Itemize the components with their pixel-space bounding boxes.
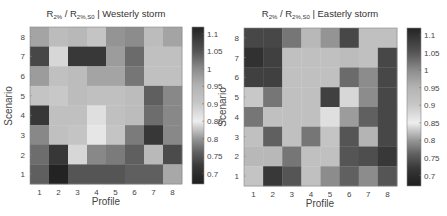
colorbar-westerly <box>192 27 204 184</box>
panel-easterly: R2% / R2%,S0 | Easterly storm 12345678 1… <box>217 8 440 209</box>
heatmap-cell <box>340 127 359 147</box>
heatmap-cell <box>125 47 144 67</box>
heatmap-cell <box>30 106 49 126</box>
heatmap-cell <box>163 47 182 67</box>
heatmap-cell <box>321 28 340 48</box>
y-tick-label: 6 <box>21 72 26 81</box>
heatmap-cell <box>282 107 301 127</box>
colorbar-tick-label: 0.95 <box>424 84 440 93</box>
colorbar-tick-label: 0.7 <box>424 172 436 181</box>
chart-title-easterly: R2% / R2%,S0 | Easterly storm <box>262 8 379 20</box>
heatmap-cell <box>163 164 182 184</box>
heatmap-cell <box>49 145 68 165</box>
heatmap-cell <box>106 106 125 126</box>
heatmap-cell <box>49 86 68 106</box>
y-tick-label: 4 <box>235 113 240 122</box>
heatmap-cell <box>301 68 320 88</box>
x-tick-label: 8 <box>385 190 390 199</box>
y-tick-label: 3 <box>21 131 26 140</box>
heatmap-cell <box>321 48 340 68</box>
heatmap-cell <box>359 166 378 186</box>
heatmap-cell <box>282 48 301 68</box>
heatmap-cell <box>321 68 340 88</box>
heatmap-cell <box>106 47 125 67</box>
y-axis-label-easterly: Scenario <box>217 87 228 127</box>
heatmap-cell <box>106 27 125 47</box>
heatmap-cell <box>378 87 397 107</box>
heatmap-cell <box>378 107 397 127</box>
heatmap-cell <box>144 106 163 126</box>
y-tick-label: 1 <box>235 172 240 181</box>
colorbar-tick-label: 0.75 <box>207 152 223 161</box>
heatmap-cell <box>244 48 263 68</box>
heatmap-cell <box>87 66 106 86</box>
heatmap-cells-easterly <box>244 28 397 186</box>
heatmap-cell <box>87 27 106 47</box>
heatmap-cell <box>301 48 320 68</box>
heatmap-cell <box>163 86 182 106</box>
x-tick-label: 1 <box>37 188 42 197</box>
heatmap-cell <box>30 125 49 145</box>
heatmap-cell <box>282 166 301 186</box>
heatmap-cell <box>359 147 378 167</box>
heatmap-cell <box>125 164 144 184</box>
heatmap-cell <box>263 127 282 147</box>
heatmap-cell <box>321 147 340 167</box>
x-tick-label: 3 <box>290 190 295 199</box>
heatmap-cell <box>68 106 87 126</box>
heatmap-cell <box>87 164 106 184</box>
colorbar-tick-label: 0.8 <box>207 135 219 144</box>
colorbar-tick-label: 1 <box>207 65 212 74</box>
panel-westerly: R2% / R2%,S0 | Westerly storm 12345678 1… <box>3 8 223 207</box>
heatmap-cell <box>144 27 163 47</box>
x-axis-label-easterly: Profile <box>306 198 335 209</box>
heatmap-cell <box>301 166 320 186</box>
heatmap-cell <box>340 147 359 167</box>
colorbar-tick-label: 0.7 <box>207 170 219 179</box>
heatmap-cell <box>30 145 49 165</box>
heatmap-cell <box>125 145 144 165</box>
heatmap-cell <box>340 48 359 68</box>
colorbar-tick-label: 1 <box>424 66 429 75</box>
y-tick-label: 2 <box>21 151 26 160</box>
y-tick-label: 2 <box>235 152 240 161</box>
heatmap-cell <box>144 86 163 106</box>
colorbar-tick-label: 0.8 <box>424 136 436 145</box>
heatmap-cell <box>244 87 263 107</box>
heatmap-cell <box>144 66 163 86</box>
heatmap-cell <box>68 66 87 86</box>
chart-title-westerly: R2% / R2%,S0 | Westerly storm <box>47 8 166 20</box>
heatmap-cell <box>106 86 125 106</box>
y-tick-label: 8 <box>235 34 240 43</box>
heatmap-cell <box>68 164 87 184</box>
y-tick-label: 7 <box>21 52 26 61</box>
heatmap-cell <box>321 107 340 127</box>
y-tick-label: 4 <box>21 111 26 120</box>
heatmap-cell <box>30 164 49 184</box>
heatmap-cell <box>68 145 87 165</box>
heatmap-cell <box>144 145 163 165</box>
heatmap-cell <box>30 27 49 47</box>
heatmap-cell <box>106 164 125 184</box>
heatmap-cell <box>30 66 49 86</box>
heatmap-cell <box>301 147 320 167</box>
colorbar-tick-label: 0.85 <box>424 119 440 128</box>
heatmap-cell <box>282 68 301 88</box>
heatmap-cell <box>340 107 359 127</box>
colorbar-tick-label: 1.05 <box>207 47 223 56</box>
heatmap-cell <box>125 86 144 106</box>
heatmap-cell <box>125 125 144 145</box>
heatmap-cell <box>68 27 87 47</box>
heatmap-cell <box>125 106 144 126</box>
colorbar-tick-label: 0.9 <box>424 101 436 110</box>
heatmap-cell <box>244 166 263 186</box>
heatmap-cell <box>244 127 263 147</box>
heatmap-cell <box>125 66 144 86</box>
y-tick-label: 8 <box>21 33 26 42</box>
heatmap-cell <box>244 68 263 88</box>
heatmap-cell <box>30 86 49 106</box>
heatmap-cell <box>263 68 282 88</box>
heatmap-cell <box>378 166 397 186</box>
heatmap-cell <box>163 145 182 165</box>
y-tick-label: 7 <box>235 54 240 63</box>
